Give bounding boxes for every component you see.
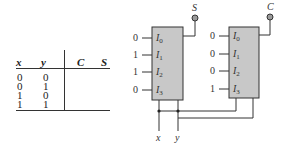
input-value: 0	[210, 30, 215, 41]
input-value: 1	[133, 49, 138, 60]
select-y-bus	[178, 98, 253, 118]
mux-s-output-wire	[183, 21, 195, 36]
output-terminal-icon	[192, 15, 198, 21]
input-value: 0	[210, 48, 215, 59]
mux-circuit: S 0 1 1 0 I0 I1 I2 I3 C 0 0 0 1 I0 I1 I2…	[0, 0, 287, 147]
mux-s: S 0 1 1 0 I0 I1 I2 I3	[133, 2, 198, 100]
output-terminal-icon	[267, 14, 273, 20]
input-value: 0	[210, 65, 215, 76]
mux-c-output-wire	[259, 20, 270, 35]
mux-c: C 0 0 0 1 I0 I1 I2 I3	[210, 1, 274, 98]
junction-dot-icon	[157, 109, 160, 112]
input-value: 0	[133, 84, 138, 95]
input-value: 1	[133, 66, 138, 77]
mux-c-output-label: C	[267, 1, 274, 12]
select-x-label: x	[155, 132, 161, 143]
input-value: 1	[210, 83, 215, 94]
junction-dot-icon	[176, 109, 179, 112]
mux-s-output-label: S	[192, 2, 197, 13]
select-lines: x y	[155, 98, 253, 143]
input-value: 0	[133, 32, 138, 43]
select-y-label: y	[174, 132, 180, 143]
